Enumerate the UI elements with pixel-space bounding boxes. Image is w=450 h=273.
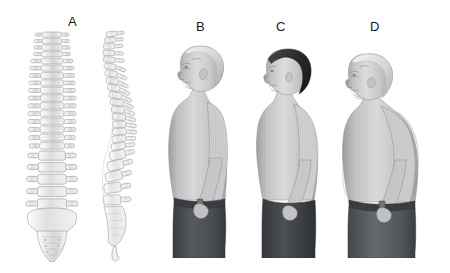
panel-label-a: A [68, 14, 77, 29]
posture-figure-c [248, 38, 334, 258]
panel-label-b: B [196, 19, 205, 34]
spine-lateral-view [92, 30, 156, 262]
figure-container: A [0, 0, 450, 273]
panel-label-d: D [370, 19, 380, 34]
posture-figure-b [161, 38, 245, 258]
posture-figure-d [337, 38, 433, 258]
panel-label-c: C [276, 19, 286, 34]
spine-anterior-view [16, 30, 88, 262]
